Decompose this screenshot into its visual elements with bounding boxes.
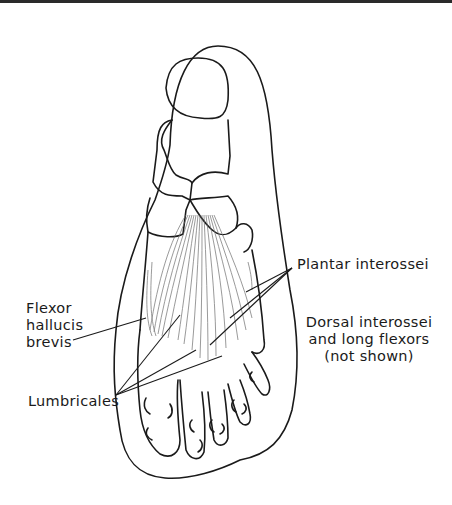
label-lumbricales: Lumbricales bbox=[28, 393, 119, 410]
label-line: Flexor bbox=[26, 300, 83, 317]
label-plantar-interossei: Plantar interossei bbox=[297, 256, 429, 273]
label-line: Dorsal interossei bbox=[294, 314, 444, 331]
label-line: and long flexors bbox=[294, 331, 444, 348]
toe-4 bbox=[228, 380, 250, 425]
toe-3 bbox=[208, 390, 228, 445]
toe-5 bbox=[244, 352, 270, 395]
leader-lumbricales-2 bbox=[116, 350, 196, 395]
calcaneus bbox=[166, 58, 228, 119]
label-line: (not shown) bbox=[294, 348, 444, 365]
label-flexor-hallucis-brevis: Flexor hallucis brevis bbox=[26, 300, 83, 351]
label-line: brevis bbox=[26, 334, 83, 351]
big-toe bbox=[138, 330, 180, 456]
label-line: hallucis bbox=[26, 317, 83, 334]
foot-illustration bbox=[0, 0, 452, 505]
toe-2 bbox=[180, 380, 205, 459]
label-dorsal-interossei: Dorsal interossei and long flexors (not … bbox=[294, 314, 444, 365]
leader-plantar-interossei-1 bbox=[246, 268, 292, 292]
leader-flexor-hallucis-brevis bbox=[73, 318, 146, 340]
